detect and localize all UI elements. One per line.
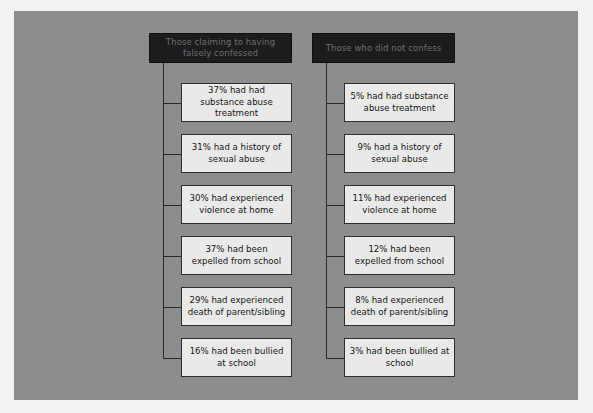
stat-box: 30% had experienced violence at home xyxy=(181,185,292,224)
stat-box: 31% had a history of sexual abuse xyxy=(181,134,292,173)
stat-box: 29% had experienced death of parent/sibl… xyxy=(181,287,292,326)
stat-box: 8% had experienced death of parent/sibli… xyxy=(344,287,455,326)
diagram-figure: Those claiming to having falsely confess… xyxy=(0,0,593,413)
connector-trunk-right xyxy=(326,63,327,358)
stat-box: 37% had had substance abuse treatment xyxy=(181,83,292,122)
connector-stub xyxy=(163,205,182,206)
connector-stub xyxy=(163,307,182,308)
connector-stub xyxy=(326,307,345,308)
column-did-not-confess: Those who did not confess 5% had had sub… xyxy=(298,11,458,400)
column-header-falsely-confessed: Those claiming to having falsely confess… xyxy=(149,33,292,63)
stat-box: 37% had been expelled from school xyxy=(181,236,292,275)
connector-stub xyxy=(326,103,345,104)
connector-stub xyxy=(326,358,345,359)
stat-box: 5% had had substance abuse treatment xyxy=(344,83,455,122)
stat-box: 9% had a history of sexual abuse xyxy=(344,134,455,173)
connector-stub xyxy=(163,358,182,359)
column-header-did-not-confess: Those who did not confess xyxy=(312,33,455,63)
connector-stub xyxy=(163,154,182,155)
connector-trunk-left xyxy=(163,63,164,358)
stat-box: 12% had been expelled from school xyxy=(344,236,455,275)
connector-stub xyxy=(326,154,345,155)
connector-stub xyxy=(326,256,345,257)
connector-stub xyxy=(163,103,182,104)
connector-stub xyxy=(326,205,345,206)
diagram-canvas: Those claiming to having falsely confess… xyxy=(14,11,578,400)
stat-box: 16% had been bullied at school xyxy=(181,338,292,377)
column-falsely-confessed: Those claiming to having falsely confess… xyxy=(135,11,295,400)
stat-box: 11% had experienced violence at home xyxy=(344,185,455,224)
stat-box: 3% had been bullied at school xyxy=(344,338,455,377)
connector-stub xyxy=(163,256,182,257)
